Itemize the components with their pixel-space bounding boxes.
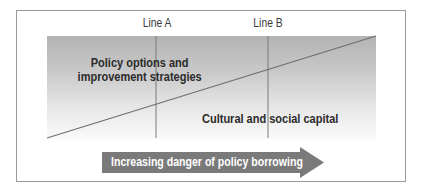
policy-options-line2: improvement strategies bbox=[78, 70, 202, 84]
cultural-social-capital-label: Cultural and social capital bbox=[202, 112, 338, 126]
line-a-label: Line A bbox=[143, 16, 172, 30]
arrow-label: Increasing danger of policy borrowing bbox=[111, 155, 303, 169]
policy-options-line1: Policy options and bbox=[78, 56, 202, 70]
line-b-label: Line B bbox=[253, 16, 282, 30]
policy-options-label: Policy options and improvement strategie… bbox=[78, 56, 202, 84]
